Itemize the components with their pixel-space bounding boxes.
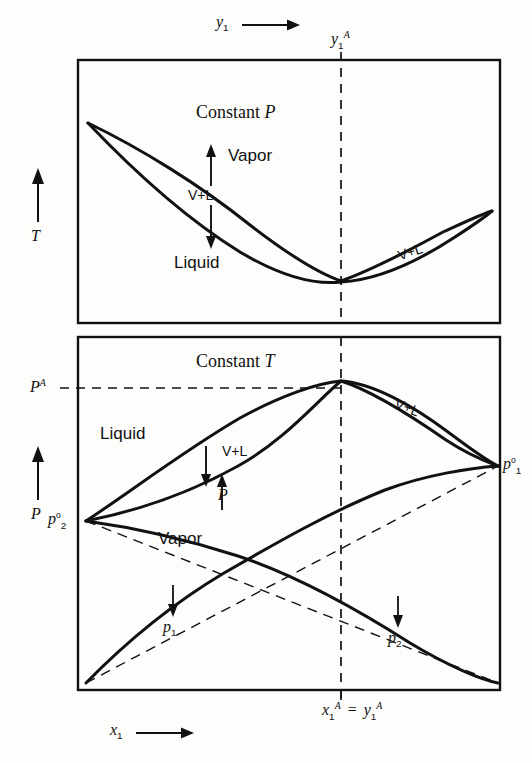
bottom-condition-label: Constant T bbox=[196, 352, 275, 370]
bottom-bubble-curve bbox=[86, 381, 498, 521]
top-dew-curve bbox=[88, 123, 492, 281]
top-liquid-region-label: Liquid bbox=[174, 254, 219, 271]
top-liquid-arrow bbox=[206, 205, 216, 249]
figure-canvas: y1 y1A Constant P Vapor V+L V+L Liquid T… bbox=[0, 0, 532, 763]
bottom-axis-arrow bbox=[136, 728, 194, 739]
temperature-axis-label: T bbox=[31, 228, 40, 244]
top-bubble-curve bbox=[88, 123, 492, 283]
partial-pressure-p1-label: p1 bbox=[163, 619, 177, 638]
top-chart-frame bbox=[78, 60, 500, 323]
bottom-vapor-region-label: Vapor bbox=[158, 530, 202, 547]
top-two-phase-label-left: V+L bbox=[188, 188, 213, 202]
p1-label-arrow bbox=[168, 585, 178, 617]
bottom-pressure-arrow-label: P bbox=[218, 487, 228, 503]
partial-pressure-p2-label: p2 bbox=[388, 630, 402, 649]
p2-label-arrow bbox=[393, 596, 403, 628]
top-vapor-arrow bbox=[206, 144, 216, 186]
pure-component-2-pressure-label: po2 bbox=[48, 510, 66, 530]
top-vapor-region-label: Vapor bbox=[228, 147, 272, 164]
pressure-azeotrope-marker: PA bbox=[30, 378, 46, 395]
bottom-two-phase-label-left: V+L bbox=[222, 444, 247, 458]
pressure-axis-arrow bbox=[32, 446, 44, 500]
top-azeotrope-marker: y1A bbox=[331, 30, 350, 50]
top-condition-label: Constant P bbox=[196, 103, 276, 121]
bottom-dew-curve bbox=[86, 381, 498, 521]
bottom-axis-label: x1 bbox=[110, 722, 123, 741]
raoult-ideal-line-p1 bbox=[86, 466, 498, 683]
top-axis-arrow bbox=[242, 20, 300, 31]
bottom-chart-frame bbox=[78, 337, 500, 690]
pressure-axis-label: P bbox=[31, 506, 41, 522]
temperature-axis-arrow bbox=[32, 168, 44, 222]
bottom-azeotrope-marker: x1A = y1A bbox=[322, 701, 382, 721]
top-axis-label: y1 bbox=[216, 14, 229, 33]
pure-component-1-pressure-label: po1 bbox=[503, 455, 521, 475]
bottom-liquid-region-label: Liquid bbox=[100, 425, 145, 442]
